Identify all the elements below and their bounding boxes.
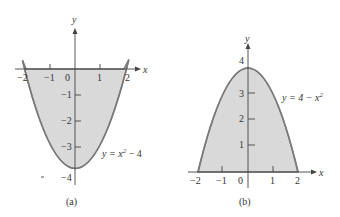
- chart-a-y-arrow-icon: [73, 28, 78, 34]
- chart-a-xtick-label: 0: [65, 72, 70, 83]
- chart-b-x-axis-label: x: [318, 167, 324, 178]
- chart-a-y-axis-label: y: [71, 14, 77, 25]
- chart-a-caption: (a): [66, 196, 77, 208]
- chart-a-xtick-label: −1: [44, 72, 55, 83]
- chart-a-ytick-label: −2: [61, 115, 72, 126]
- chart-b-y-axis-label: y: [244, 33, 250, 44]
- chart-a-xtick-label: −2: [17, 72, 28, 83]
- chart-b-xtick-label: 1: [270, 175, 275, 186]
- chart-b-xtick-label: −2: [190, 175, 201, 186]
- chart-a: x y −2 −1 0 1 2 −1 −2 −3 −4 y = x2 − 4 (…: [15, 14, 148, 208]
- figure: x y −2 −1 0 1 2 −1 −2 −3 −4 y = x2 − 4 (…: [0, 0, 340, 217]
- chart-b-ytick-label: 4: [239, 55, 244, 66]
- chart-a-xtick-label: 1: [97, 72, 102, 83]
- chart-a-ytick-label: −1: [61, 89, 72, 100]
- chart-a-ytick-label: −4: [61, 172, 72, 183]
- chart-b-ytick-label: 1: [239, 139, 244, 150]
- chart-b-xtick-label: −1: [216, 175, 227, 186]
- chart-a-x-arrow-icon: [135, 67, 141, 72]
- chart-a-ytick-label: −3: [61, 141, 72, 152]
- chart-b-ytick-label: 3: [239, 88, 244, 99]
- chart-b-equation-label: y = 4 − x2: [281, 91, 323, 103]
- chart-a-equation-label: y = x2 − 4: [101, 147, 142, 159]
- chart-b-ytick-label: 2: [239, 113, 244, 124]
- chart-a-x-axis-label: x: [142, 64, 148, 75]
- chart-b-xtick-label: 0: [238, 175, 243, 186]
- chart-b-caption: (b): [239, 196, 251, 208]
- chart-a-xtick-label: 2: [125, 72, 130, 83]
- chart-b-x-arrow-icon: [311, 170, 317, 175]
- chart-b-xtick-label: 2: [295, 175, 300, 186]
- chart-b: x y −2 −1 0 1 2 1 2 3 4 y = 4 − x2 (b): [188, 33, 324, 208]
